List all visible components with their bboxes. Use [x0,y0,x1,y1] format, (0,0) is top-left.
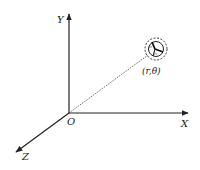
z-axis [16,113,69,152]
point-label: (r,θ) [142,66,161,76]
position-vector [69,55,148,113]
svg-text:r₀: r₀ [149,44,153,49]
svg-text:r₁: r₁ [154,51,158,56]
origin-label: O [67,116,75,127]
x-axis-label: X [180,118,189,129]
y-axis-label: Y [57,14,65,25]
z-axis-label: Z [21,151,30,162]
rotating-point-marker: r₀ r₁ [145,38,167,60]
coordinate-diagram: Y X Z O r₀ r₁ (r,θ) [0,0,200,170]
